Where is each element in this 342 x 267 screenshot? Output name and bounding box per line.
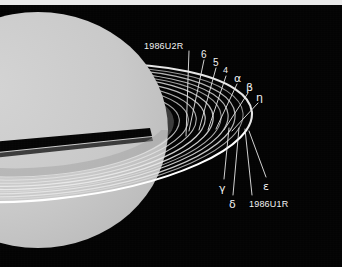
ring-4-label: 4 — [223, 66, 228, 75]
ring-delta-label: δ — [229, 199, 236, 210]
ring-alpha-label: α — [234, 73, 241, 84]
ring-5-label: 5 — [213, 58, 219, 68]
planet-group — [0, 12, 168, 248]
leader-eta — [232, 103, 258, 131]
ring-eta-label: η — [256, 92, 263, 103]
leader-delta — [233, 128, 239, 195]
ring-1986U1R-label: 1986U1R — [249, 200, 288, 209]
ring-6-label: 6 — [201, 50, 207, 60]
leader-1986U1R — [245, 129, 252, 195]
ring-gamma-label: γ — [219, 183, 226, 194]
ring-beta-label: β — [246, 82, 253, 93]
leader-epsilon — [249, 131, 266, 177]
ring-1986U2R-label: 1986U2R — [144, 42, 183, 51]
ring-system-figure: 1986U2R654αβηγδ1986U1Rε — [0, 0, 342, 267]
ring-epsilon-label: ε — [263, 181, 269, 192]
